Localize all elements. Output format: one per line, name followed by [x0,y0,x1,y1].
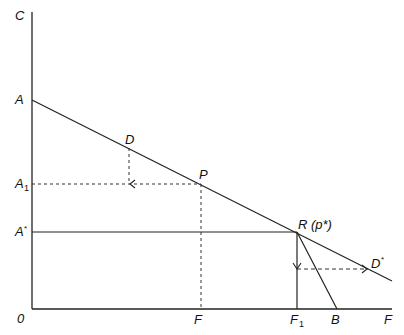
label-a1-sub: 1 [24,183,29,193]
origin-label: 0 [17,311,25,326]
x-axis-label: F [384,312,393,327]
label-f1-sub: 1 [299,319,304,329]
budget-line [32,100,392,281]
label-a: A [14,92,24,107]
label-d-star-sup: * [381,255,384,264]
label-p: P [199,167,208,182]
label-f-tick: F [194,312,203,327]
label-a-star: A [14,224,24,239]
label-f1: F [290,312,299,327]
label-b: B [331,312,340,327]
budget-constraint-diagram: C A A 1 A * 0 D P R (p*) D * F F 1 B F [0,0,404,335]
label-r: R (p*) [298,217,332,232]
label-a1: A [14,176,24,191]
y-axis-label: C [15,8,25,23]
label-a-star-sup: * [24,224,27,233]
label-d: D [125,132,134,147]
label-d-star: D [371,256,380,271]
